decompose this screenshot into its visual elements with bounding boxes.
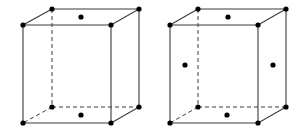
corner-atom — [108, 120, 113, 125]
diagram-canvas — [0, 0, 302, 139]
left-face-center-atom — [182, 62, 187, 67]
corner-atom — [255, 22, 260, 27]
corner-atom — [49, 6, 54, 11]
corner-atom — [195, 6, 200, 11]
hidden-edge — [170, 107, 198, 123]
hidden-edge — [23, 107, 52, 123]
corner-atom — [136, 6, 141, 11]
cell-edge — [258, 107, 286, 123]
cell-edge — [111, 107, 139, 123]
bottom-face-center-atom — [224, 112, 229, 117]
corner-atom — [255, 120, 260, 125]
corner-atom — [49, 104, 54, 109]
corner-atom — [283, 104, 288, 109]
cell-edge — [170, 9, 198, 25]
corner-atom — [167, 120, 172, 125]
unit-cell-base-centered — [20, 6, 141, 125]
cell-edge — [111, 9, 139, 25]
cell-edge — [23, 9, 52, 25]
corner-atom — [20, 22, 25, 27]
corner-atom — [20, 120, 25, 125]
unit-cells-figure — [0, 0, 302, 139]
corner-atom — [283, 6, 288, 11]
corner-atom — [167, 22, 172, 27]
cell-edge — [258, 9, 286, 25]
top-face-center-atom — [225, 14, 230, 19]
bottom-face-center-atom — [78, 112, 83, 117]
corner-atom — [108, 22, 113, 27]
top-face-center-atom — [78, 14, 83, 19]
right-face-center-atom — [270, 62, 275, 67]
corner-atom — [136, 104, 141, 109]
unit-cell-face-centered — [167, 6, 288, 125]
corner-atom — [195, 104, 200, 109]
